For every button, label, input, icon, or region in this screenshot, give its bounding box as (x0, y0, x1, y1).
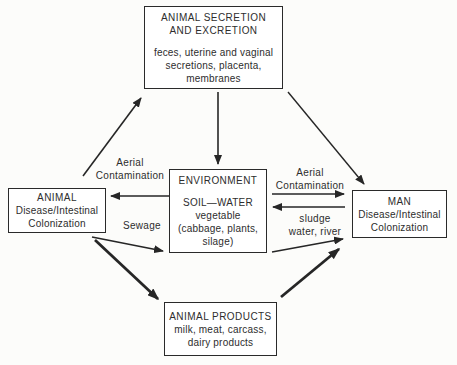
body-line: Colonization (16, 217, 99, 230)
body-line: dairy products (174, 336, 266, 349)
body-line: SOIL—WATER (178, 196, 258, 209)
box-title: ANIMAL PRODUCTS (169, 310, 272, 323)
label-aerial-contamination-left: Aerial Contamination (84, 156, 176, 182)
box-animal: ANIMAL Disease/Intestinal Colonization (8, 188, 106, 233)
body-line: (cabbage, plants, (178, 222, 258, 235)
label-line: Contamination (264, 179, 356, 192)
title-line: ANIMAL PRODUCTS (169, 310, 272, 323)
body-line: membranes (154, 72, 273, 85)
body-line: feces, uterine and vaginal (154, 46, 273, 59)
label-sludge-water-river: sludge water, river (277, 212, 353, 238)
label-line: Contamination (84, 169, 176, 182)
title-line: ANIMAL (37, 191, 77, 204)
box-man: MAN Disease/Intestinal Colonization (352, 190, 447, 238)
label-sewage: Sewage (109, 219, 175, 232)
box-body: milk, meat, carcass, dairy products (174, 323, 266, 349)
title-line: ENVIRONMENT (179, 174, 258, 187)
box-title: MAN (388, 195, 412, 208)
label-line: sludge (277, 212, 353, 225)
box-body: Disease/Intestinal Colonization (358, 208, 441, 234)
box-animal-secretion-excretion: ANIMAL SECRETION AND EXCRETION feces, ut… (144, 6, 283, 89)
box-title: ANIMAL SECRETION AND EXCRETION (161, 11, 266, 37)
label-aerial-contamination-right: Aerial Contamination (264, 166, 356, 192)
box-body: Disease/Intestinal Colonization (16, 204, 99, 230)
box-body: feces, uterine and vaginal secretions, p… (154, 46, 273, 85)
body-line: vegetable (178, 209, 258, 222)
body-line: secretions, placenta, (154, 59, 273, 72)
label-line: Aerial (84, 156, 176, 169)
arrow-environment-to-man-lower (272, 239, 343, 252)
body-line: silage) (178, 235, 258, 248)
title-line: MAN (388, 195, 412, 208)
box-animal-products: ANIMAL PRODUCTS milk, meat, carcass, dai… (164, 302, 277, 356)
body-line: Disease/Intestinal (358, 208, 441, 221)
box-title: ENVIRONMENT (179, 174, 258, 187)
transmission-cycle-diagram: ANIMAL SECRETION AND EXCRETION feces, ut… (0, 0, 457, 365)
label-line: Aerial (264, 166, 356, 179)
body-line: Disease/Intestinal (16, 204, 99, 217)
label-line: Sewage (109, 219, 175, 232)
body-line: Colonization (358, 221, 441, 234)
box-body: SOIL—WATER vegetable (cabbage, plants, s… (178, 196, 258, 248)
label-line: water, river (277, 225, 353, 238)
arrow-products-to-man (281, 249, 339, 297)
box-environment: ENVIRONMENT SOIL—WATER vegetable (cabbag… (169, 169, 267, 253)
box-title: ANIMAL (37, 191, 77, 204)
title-line: AND EXCRETION (161, 24, 266, 37)
title-line: ANIMAL SECRETION (161, 11, 266, 24)
body-line: milk, meat, carcass, (174, 323, 266, 336)
